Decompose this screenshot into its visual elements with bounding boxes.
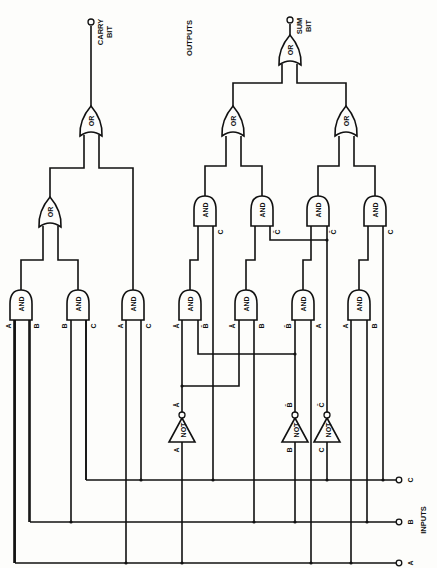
svg-text:C: C [90, 323, 97, 328]
svg-text:C̄: C̄ [273, 229, 281, 234]
svg-text:OR: OR [47, 207, 54, 218]
svg-text:OR: OR [230, 116, 237, 127]
carry-label-line2: BIT [105, 26, 114, 39]
svg-text:B̄: B̄ [201, 323, 209, 328]
svg-text:AND: AND [372, 202, 379, 217]
svg-text:C: C [145, 323, 152, 328]
svg-text:C̄: C̄ [317, 402, 325, 407]
svg-text:B̄: B̄ [284, 323, 292, 328]
input-a-label: A [407, 560, 414, 565]
svg-text:B: B [258, 323, 265, 328]
carry-bit-terminal[interactable] [88, 19, 94, 25]
svg-text:B: B [286, 447, 293, 452]
svg-text:C: C [318, 447, 325, 452]
svg-text:A: A [173, 447, 180, 452]
svg-text:B: B [61, 323, 68, 328]
svg-text:AND: AND [243, 296, 250, 311]
outputs-label: OUTPUTS [185, 20, 194, 56]
carry-section: AND AND AND A B B C A C OR OR CARRY BIT [5, 19, 152, 563]
svg-text:A: A [117, 323, 124, 328]
sum-section: AND AND AND AND Ā B̄ Ā B B̄ A A B AND AN… [173, 17, 394, 563]
svg-text:C: C [217, 229, 224, 234]
input-c-label: C [407, 477, 414, 482]
svg-text:Ā: Ā [173, 323, 180, 328]
svg-text:OR: OR [287, 45, 294, 56]
sum-label-line1: SUM [295, 18, 304, 35]
svg-text:AND: AND [315, 202, 322, 217]
svg-text:AND: AND [75, 296, 82, 311]
sum-label-line2: BIT [304, 20, 313, 33]
sum-bit-terminal[interactable] [287, 17, 293, 23]
svg-text:AND: AND [187, 296, 194, 311]
svg-text:B̄: B̄ [285, 402, 293, 407]
input-b-terminal[interactable] [396, 519, 402, 525]
svg-text:AND: AND [130, 296, 137, 311]
input-terminals: C B A INPUTS [396, 477, 428, 566]
svg-text:B: B [371, 323, 378, 328]
carry-label-line1: CARRY [96, 19, 105, 45]
input-c-terminal[interactable] [396, 477, 402, 483]
svg-text:C: C [387, 229, 394, 234]
inputs-label: INPUTS [419, 506, 428, 534]
svg-text:NOT: NOT [325, 422, 332, 438]
svg-text:A: A [315, 323, 322, 328]
svg-text:B: B [33, 323, 40, 328]
svg-text:NOT: NOT [180, 422, 187, 438]
svg-text:AND: AND [202, 202, 209, 217]
svg-text:A: A [342, 323, 349, 328]
full-adder-circuit-diagram: C B A INPUTS AND AND AND A B B C A C OR [0, 0, 437, 568]
svg-text:AND: AND [259, 202, 266, 217]
svg-text:OR: OR [88, 116, 95, 127]
junction-dots [69, 238, 384, 564]
svg-text:OR: OR [343, 116, 350, 127]
input-a-terminal[interactable] [396, 560, 402, 566]
svg-text:C̄: C̄ [329, 229, 337, 234]
svg-text:AND: AND [356, 296, 363, 311]
svg-text:AND: AND [18, 296, 25, 311]
input-b-label: B [407, 519, 414, 524]
svg-text:Ā: Ā [229, 323, 236, 328]
svg-text:A: A [5, 323, 12, 328]
svg-text:AND: AND [300, 296, 307, 311]
svg-text:Ā: Ā [173, 402, 180, 407]
svg-text:NOT: NOT [293, 422, 300, 438]
